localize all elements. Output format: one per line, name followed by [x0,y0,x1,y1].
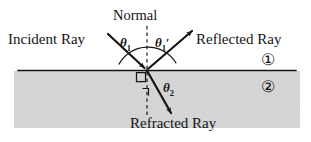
theta2-symbol: θ [163,80,170,95]
angle-theta1-label: θ1 [120,36,131,52]
theta2-subscript: 2 [170,88,174,98]
normal-label: Normal [113,8,157,23]
angle-theta1-prime-label: θ1′ [155,36,169,52]
incidence-point [146,69,149,72]
angle-theta2-label: θ2 [163,81,174,97]
refracted-ray-label: Refracted Ray [130,116,216,131]
theta1-prime-symbol: θ [155,35,162,50]
theta1-symbol: θ [120,35,127,50]
incident-ray-label: Incident Ray [8,32,85,47]
medium-2-label: ② [261,79,275,95]
reflected-ray-label: Reflected Ray [196,32,281,47]
medium-1-label: ① [261,52,275,68]
theta1-subscript: 1 [127,43,131,53]
optics-diagram: Incident Ray Normal Reflected Ray Refrac… [0,0,311,142]
prime-mark: ′ [166,36,169,50]
